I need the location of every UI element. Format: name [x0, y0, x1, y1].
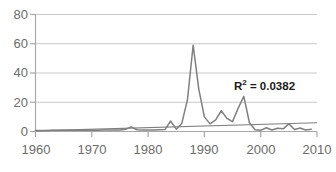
- x-axis-label-2010: 2010: [295, 142, 336, 157]
- x-axis-label-2000: 2000: [239, 142, 283, 157]
- x-axis-ticks: [36, 132, 318, 138]
- y-axis-label-0: 0: [2, 124, 28, 139]
- x-axis-label-1980: 1980: [126, 142, 170, 157]
- y-axis-label-20: 20: [2, 95, 28, 110]
- y-axis-ticks: [30, 15, 36, 132]
- x-axis-label-1970: 1970: [70, 142, 114, 157]
- y-axis-label-40: 40: [2, 65, 28, 80]
- x-axis-label-1960: 1960: [14, 142, 58, 157]
- x-axis-label-1990: 1990: [182, 142, 226, 157]
- r-squared-annotation: R2 = 0.0382: [234, 80, 295, 92]
- r-squared-value: = 0.0382: [247, 80, 295, 92]
- y-axis-label-60: 60: [2, 36, 28, 51]
- y-axis-label-80: 80: [2, 7, 28, 22]
